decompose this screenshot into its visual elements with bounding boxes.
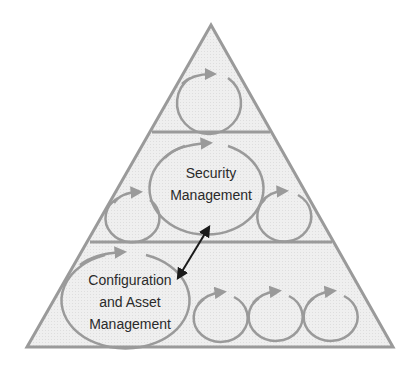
- security-label-line2: Management: [170, 187, 252, 203]
- security-label-line1: Security: [186, 165, 237, 181]
- pyramid-diagram: Security Management Configuration and As…: [0, 0, 411, 372]
- config-label-line2: and Asset: [99, 294, 161, 310]
- config-label-line3: Management: [89, 316, 171, 332]
- config-label-line1: Configuration: [88, 272, 171, 288]
